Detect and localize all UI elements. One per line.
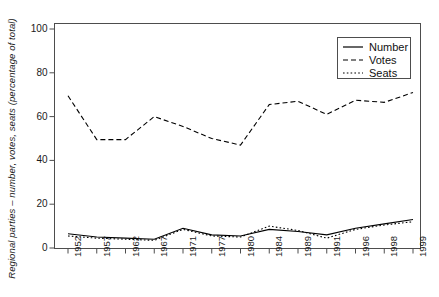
y-tick-label: 40	[22, 154, 48, 165]
x-tick-label: 1984	[273, 235, 284, 256]
x-tick-label: 1989	[302, 235, 313, 256]
y-tick-label: 0	[22, 242, 48, 253]
x-tick-label: 1962	[130, 235, 141, 256]
legend-key-seats-icon	[342, 67, 364, 79]
y-tick-label: 100	[22, 23, 48, 34]
x-tick-label: 1977	[216, 235, 227, 256]
x-tick-label: 1999	[417, 235, 428, 256]
x-tick-label: 1998	[388, 235, 399, 256]
x-tick-label: 1952	[72, 235, 83, 256]
x-tick-label: 1980	[245, 235, 256, 256]
legend-label: Seats	[369, 67, 397, 79]
legend-label: Number	[369, 41, 408, 53]
y-tick-label: 80	[22, 67, 48, 78]
legend-item-seats: Seats	[342, 66, 410, 79]
y-tick-label: 60	[22, 111, 48, 122]
legend-item-number: Number	[342, 40, 410, 53]
y-axis-ticks	[50, 29, 55, 248]
x-tick-label: 1996	[360, 235, 371, 256]
legend-label: Votes	[369, 54, 397, 66]
x-tick-label: 1957	[101, 235, 112, 256]
y-tick-label: 20	[22, 198, 48, 209]
chart-legend: NumberVotesSeats	[337, 37, 411, 79]
legend-key-votes-icon	[342, 54, 364, 66]
x-tick-label: 1967	[158, 235, 169, 256]
legend-key-number-icon	[342, 41, 364, 53]
x-tick-label: 1991	[331, 235, 342, 256]
chart-figure: Regional parties – number, votes, seats …	[0, 0, 439, 297]
x-tick-label: 1971	[187, 235, 198, 256]
legend-item-votes: Votes	[342, 53, 410, 66]
